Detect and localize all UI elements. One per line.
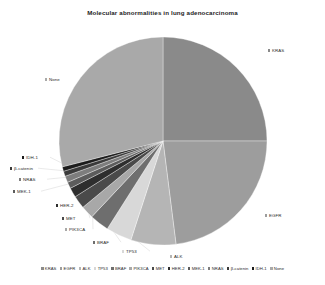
legend-item[interactable]: NRAS bbox=[208, 266, 224, 271]
slice-label-text: PIK3CA bbox=[69, 227, 85, 232]
legend-swatch bbox=[152, 267, 155, 270]
legend-item[interactable]: β-catenin bbox=[227, 266, 249, 271]
pie-slice[interactable] bbox=[163, 141, 267, 244]
slice-label-text: HER-2 bbox=[60, 203, 74, 208]
legend-swatch bbox=[60, 267, 63, 270]
slice-label-marker bbox=[65, 228, 67, 230]
slice-label-tp53: TP53 bbox=[122, 249, 137, 254]
slice-label-alk: ALK bbox=[170, 254, 183, 259]
slice-label-mek-1: MEK-1 bbox=[13, 189, 31, 194]
legend-item[interactable]: ALK bbox=[79, 266, 91, 271]
legend-label: MEK-1 bbox=[192, 266, 205, 271]
legend-swatch bbox=[94, 267, 97, 270]
legend-swatch bbox=[227, 267, 230, 270]
slice-label-text: MET bbox=[66, 216, 76, 221]
legend-item[interactable]: HER-2 bbox=[168, 266, 185, 271]
legend-item[interactable]: IDH-1 bbox=[252, 266, 267, 271]
legend-label: β-catenin bbox=[231, 266, 249, 271]
slice-label-text: ALK bbox=[174, 254, 183, 259]
legend-item[interactable]: TP53 bbox=[94, 266, 108, 271]
pie-chart-canvas bbox=[0, 0, 325, 285]
legend-label: TP53 bbox=[98, 266, 108, 271]
legend-item[interactable]: PIK3CA bbox=[129, 266, 148, 271]
slice-label-text: β-catenin bbox=[14, 166, 33, 171]
slice-label-marker bbox=[122, 250, 124, 252]
legend-item[interactable]: KRAS bbox=[41, 266, 57, 271]
slice-label-marker bbox=[170, 255, 172, 257]
legend-item[interactable]: BRAF bbox=[111, 266, 126, 271]
legend-label: ALK bbox=[82, 266, 90, 271]
legend-swatch bbox=[168, 267, 171, 270]
legend-item[interactable]: MEK-1 bbox=[188, 266, 205, 271]
legend-label: HER-2 bbox=[172, 266, 185, 271]
slice-label-egfr: EGFR bbox=[265, 213, 282, 218]
slice-label-text: BRAF bbox=[97, 240, 109, 245]
slice-label-idh-1: IDH-1 bbox=[22, 155, 38, 160]
slice-label-pik3ca: PIK3CA bbox=[65, 227, 85, 232]
slice-label-nras: NRAS bbox=[19, 177, 36, 182]
chart-legend: KRASEGFRALKTP53BRAFPIK3CAMETHER-2MEK-1NR… bbox=[0, 266, 325, 271]
legend-swatch bbox=[41, 267, 44, 270]
slice-label-none: None bbox=[45, 77, 60, 82]
legend-swatch bbox=[79, 267, 82, 270]
legend-label: NRAS bbox=[212, 266, 224, 271]
slice-label-marker bbox=[265, 214, 267, 216]
slice-label-marker bbox=[19, 178, 21, 180]
legend-label: PIK3CA bbox=[133, 266, 148, 271]
legend-swatch bbox=[129, 267, 132, 270]
slice-label-met: MET bbox=[62, 216, 76, 221]
legend-label: MET bbox=[156, 266, 165, 271]
slice-label--catenin: β-catenin bbox=[10, 166, 33, 171]
legend-label: BRAF bbox=[115, 266, 126, 271]
slice-label-marker bbox=[62, 217, 64, 219]
legend-label: EGFR bbox=[64, 266, 76, 271]
slice-label-text: NRAS bbox=[23, 177, 36, 182]
slice-label-marker bbox=[45, 78, 47, 80]
slice-label-marker bbox=[56, 204, 58, 206]
legend-swatch bbox=[208, 267, 211, 270]
legend-item[interactable]: EGFR bbox=[60, 266, 76, 271]
pie-chart-figure: Molecular abnormalities in lung adenocar… bbox=[0, 0, 325, 285]
legend-swatch bbox=[111, 267, 114, 270]
legend-swatch bbox=[270, 267, 273, 270]
pie-slices-group bbox=[59, 37, 267, 245]
slice-label-text: TP53 bbox=[126, 249, 137, 254]
legend-label: None bbox=[274, 266, 284, 271]
slice-label-marker bbox=[10, 167, 12, 169]
slice-label-kras: KRAS bbox=[268, 48, 284, 53]
slice-label-text: EGFR bbox=[269, 213, 282, 218]
slice-label-text: None bbox=[49, 77, 60, 82]
slice-label-marker bbox=[13, 190, 15, 192]
slice-label-her-2: HER-2 bbox=[56, 203, 74, 208]
slice-label-braf: BRAF bbox=[93, 240, 109, 245]
slice-label-marker bbox=[22, 156, 24, 158]
legend-item[interactable]: MET bbox=[152, 266, 165, 271]
slice-label-marker bbox=[268, 49, 270, 51]
slice-label-text: IDH-1 bbox=[26, 155, 38, 160]
legend-label: KRAS bbox=[45, 266, 57, 271]
pie-slice[interactable] bbox=[163, 37, 267, 141]
legend-swatch bbox=[188, 267, 191, 270]
slice-label-text: KRAS bbox=[272, 48, 284, 53]
slice-label-marker bbox=[93, 241, 95, 243]
legend-label: IDH-1 bbox=[256, 266, 267, 271]
legend-swatch bbox=[252, 267, 255, 270]
slice-label-text: MEK-1 bbox=[17, 189, 31, 194]
legend-item[interactable]: None bbox=[270, 266, 284, 271]
